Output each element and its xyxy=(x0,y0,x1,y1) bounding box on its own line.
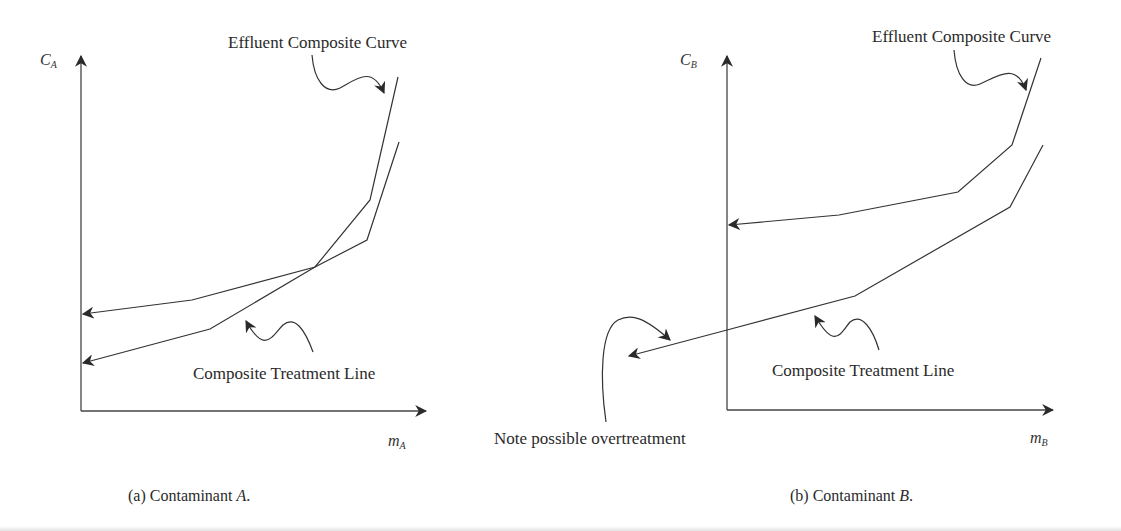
caption-a: (a) Contaminant A. xyxy=(128,488,250,504)
overtreatment-pointer-arrow xyxy=(602,317,670,422)
page-edge-shadow xyxy=(0,526,1121,531)
composite-treatment-line-b xyxy=(629,145,1043,356)
y-axis-label-a: CA xyxy=(40,52,57,70)
figure-canvas xyxy=(0,0,1121,531)
effluent-composite-curve-b xyxy=(729,58,1041,225)
x-axis-label-b: mB xyxy=(1030,430,1048,448)
composite-treatment-line-label-a: Composite Treatment Line xyxy=(193,365,375,382)
treatment-pointer-arrow-a xyxy=(246,321,313,352)
effluent-pointer-arrow-b xyxy=(954,50,1026,90)
overtreatment-note-label: Note possible overtreatment xyxy=(494,430,686,447)
x-axis-label-a: mA xyxy=(388,433,406,451)
effluent-pointer-arrow-a xyxy=(312,55,384,93)
effluent-composite-curve-a xyxy=(83,77,398,314)
composite-treatment-line-a xyxy=(83,142,399,363)
effluent-composite-curve-label-a: Effluent Composite Curve xyxy=(228,34,407,51)
treatment-pointer-arrow-b xyxy=(815,316,879,350)
panel-a xyxy=(81,55,426,411)
composite-treatment-line-label-b: Composite Treatment Line xyxy=(772,362,954,379)
caption-b: (b) Contaminant B. xyxy=(790,488,913,504)
effluent-composite-curve-label-b: Effluent Composite Curve xyxy=(872,28,1051,45)
y-axis-label-b: CB xyxy=(680,52,697,70)
